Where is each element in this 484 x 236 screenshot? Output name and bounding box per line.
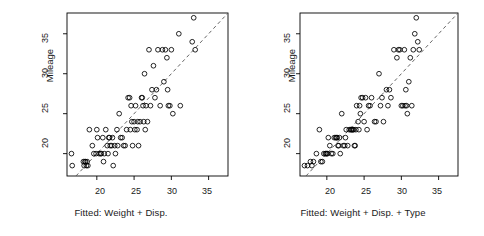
- data-point: [408, 55, 413, 60]
- data-point: [363, 95, 368, 100]
- data-point: [395, 55, 400, 60]
- data-point: [190, 39, 195, 44]
- x-tick-label-35-right: 35: [425, 186, 449, 196]
- data-point: [143, 127, 148, 132]
- scatterplot-figure: Mileage 35 30 25 20 20 25 30 35 Fitted: …: [0, 0, 484, 236]
- plot-box: [67, 13, 228, 176]
- data-point: [100, 135, 105, 140]
- x-tick-label-30-right: 30: [390, 186, 414, 196]
- y-tick-label-35-right: 35: [282, 27, 292, 49]
- data-point: [95, 135, 100, 140]
- data-point: [369, 95, 374, 100]
- data-point: [133, 103, 138, 108]
- data-point: [402, 47, 407, 52]
- y-tick-label-20-right: 20: [282, 132, 292, 154]
- panel-fitted-weight-disp-type: Mileage 35 30 25 20 20 25 30 35 Fitted: …: [242, 0, 484, 236]
- x-tick-label-20-left: 20: [88, 186, 112, 196]
- data-point: [193, 47, 198, 52]
- data-point: [151, 63, 156, 68]
- data-point: [115, 127, 120, 132]
- y-tick-label-30-right: 30: [282, 62, 292, 84]
- x-axis-title-left: Fitted: Weight + Disp.: [0, 207, 242, 218]
- data-point: [387, 87, 392, 92]
- data-point: [111, 163, 116, 168]
- data-point: [170, 111, 175, 116]
- y-tick-label-35-left: 35: [40, 27, 50, 49]
- data-point: [90, 143, 95, 148]
- data-point: [339, 111, 344, 116]
- data-points: [302, 15, 421, 168]
- x-tick-label-30-left: 30: [160, 186, 184, 196]
- data-point: [343, 135, 348, 140]
- x-tick-label-25-right: 25: [354, 186, 378, 196]
- data-point: [150, 87, 155, 92]
- data-point: [338, 151, 343, 156]
- y-tick-label-20-left: 20: [40, 132, 50, 154]
- data-point: [130, 143, 135, 148]
- x-tick-label-25-left: 25: [124, 186, 148, 196]
- data-point: [178, 103, 183, 108]
- data-point: [113, 151, 118, 156]
- data-point: [345, 143, 350, 148]
- data-point: [314, 151, 319, 156]
- data-point: [176, 31, 181, 36]
- data-point: [153, 95, 158, 100]
- data-point: [115, 143, 120, 148]
- data-point: [362, 119, 367, 124]
- data-point: [163, 47, 168, 52]
- x-tick-label-20-right: 20: [318, 186, 342, 196]
- data-point: [357, 127, 362, 132]
- y-tick-label-25-right: 25: [282, 97, 292, 119]
- data-point: [326, 135, 331, 140]
- data-point: [389, 95, 394, 100]
- data-point: [117, 111, 122, 116]
- data-point: [165, 55, 170, 60]
- data-point: [129, 103, 134, 108]
- data-point: [94, 127, 99, 132]
- data-point: [381, 119, 386, 124]
- data-point: [70, 163, 75, 168]
- x-tick-label-35-left: 35: [195, 186, 219, 196]
- y-tick-label-30-left: 30: [40, 62, 50, 84]
- data-point: [357, 103, 362, 108]
- data-point: [377, 71, 382, 76]
- data-point: [147, 47, 152, 52]
- data-point: [417, 47, 422, 52]
- data-points: [69, 15, 197, 168]
- data-point: [317, 127, 322, 132]
- data-point: [191, 15, 196, 20]
- data-point: [386, 103, 391, 108]
- data-point: [415, 39, 420, 44]
- data-point: [142, 71, 147, 76]
- data-point: [103, 127, 108, 132]
- data-point: [69, 151, 74, 156]
- data-point: [158, 103, 163, 108]
- panel-fitted-weight-disp: Mileage 35 30 25 20 20 25 30 35 Fitted: …: [0, 0, 242, 236]
- data-point: [378, 103, 383, 108]
- data-point: [148, 103, 153, 108]
- data-point: [162, 79, 167, 84]
- data-point: [380, 95, 385, 100]
- y-tick-label-25-left: 25: [40, 97, 50, 119]
- data-point: [411, 47, 416, 52]
- data-point: [406, 79, 411, 84]
- plot-area-right: [242, 0, 484, 236]
- data-point: [311, 159, 316, 164]
- data-point: [365, 127, 370, 132]
- data-point: [144, 103, 149, 108]
- data-point: [403, 87, 408, 92]
- data-point: [405, 111, 410, 116]
- data-point: [409, 103, 414, 108]
- data-point: [358, 111, 363, 116]
- data-point: [412, 31, 417, 36]
- data-point: [327, 143, 332, 148]
- data-point: [101, 159, 106, 164]
- data-point: [392, 47, 397, 52]
- data-point: [87, 127, 92, 132]
- plot-area-left: [0, 0, 242, 236]
- data-point: [136, 143, 141, 148]
- data-point: [414, 15, 419, 20]
- data-point: [169, 47, 174, 52]
- x-axis-title-right: Fitted: Weight + Disp. + Type: [242, 207, 484, 218]
- data-point: [156, 47, 161, 52]
